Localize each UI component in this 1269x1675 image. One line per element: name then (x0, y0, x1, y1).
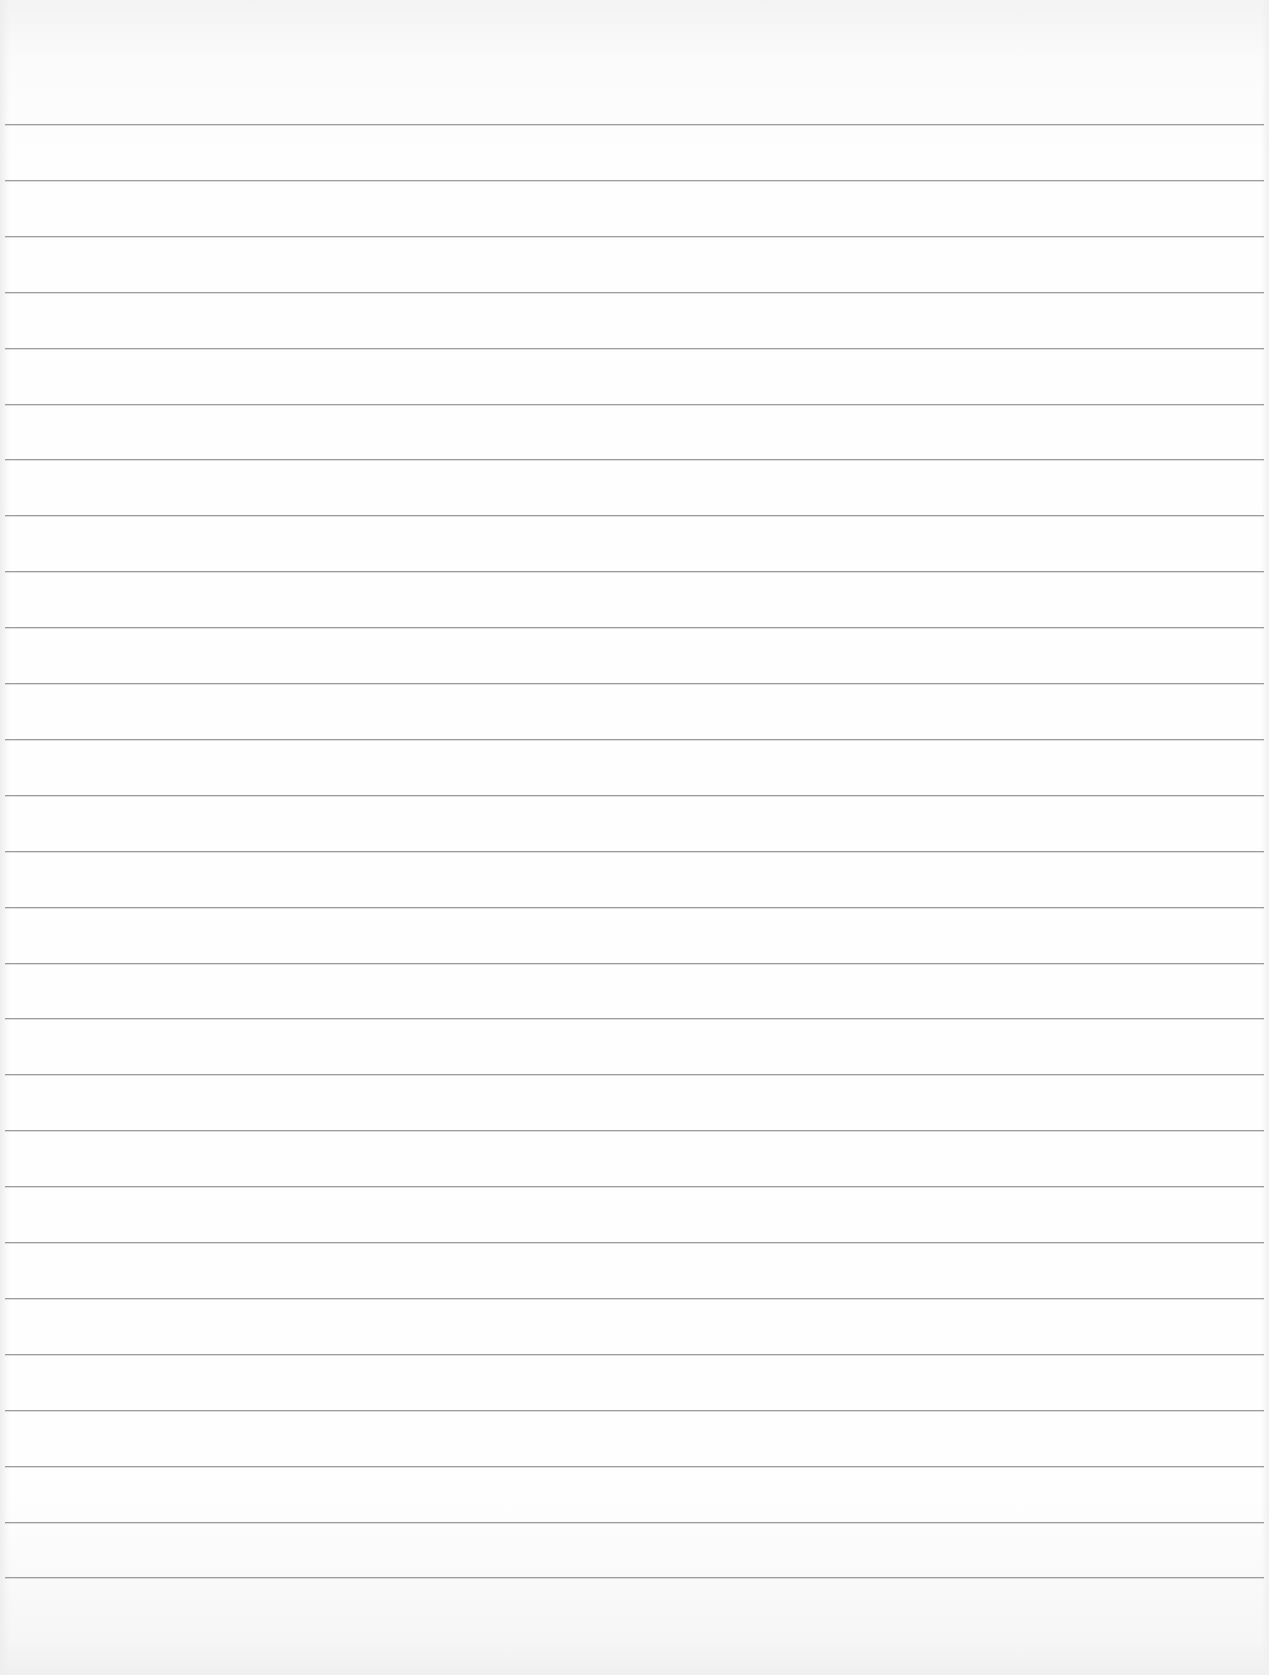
ruled-line (5, 963, 1264, 964)
ruled-line (5, 515, 1264, 516)
ruled-line (5, 627, 1264, 628)
ruled-line (5, 1522, 1264, 1523)
ruled-line (5, 124, 1264, 125)
ruled-line (5, 236, 1264, 237)
ruled-line (5, 292, 1264, 293)
paper-right-edge-shadow (1261, 0, 1269, 1675)
ruled-line (5, 1242, 1264, 1243)
ruled-line (5, 795, 1264, 796)
lined-paper-page (0, 0, 1269, 1675)
ruled-line (5, 1130, 1264, 1131)
paper-left-edge-shadow (0, 0, 10, 1675)
ruled-line (5, 1410, 1264, 1411)
ruled-line (5, 1354, 1264, 1355)
ruled-line (5, 459, 1264, 460)
ruled-line (5, 1298, 1264, 1299)
ruled-line (5, 348, 1264, 349)
ruled-line (5, 683, 1264, 684)
ruled-line (5, 404, 1264, 405)
ruled-line (5, 1018, 1264, 1019)
ruled-line (5, 739, 1264, 740)
ruled-line (5, 180, 1264, 181)
ruled-line (5, 571, 1264, 572)
ruled-line (5, 1577, 1264, 1578)
ruled-line (5, 1466, 1264, 1467)
ruled-line (5, 907, 1264, 908)
ruled-line (5, 1074, 1264, 1075)
ruled-line (5, 851, 1264, 852)
ruled-line (5, 1186, 1264, 1187)
